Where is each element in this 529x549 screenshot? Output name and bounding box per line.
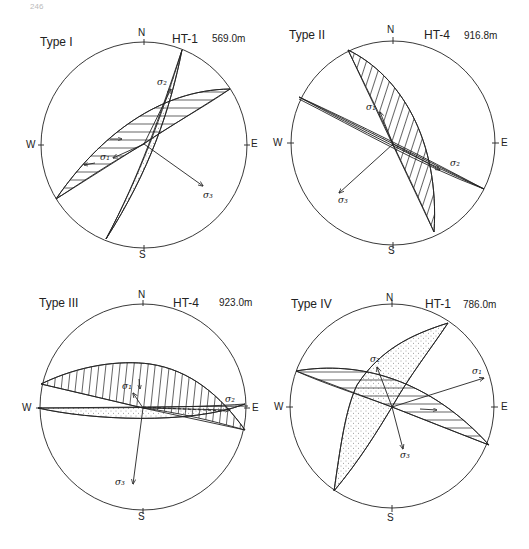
- east-label: E: [501, 402, 508, 412]
- west-label: W: [274, 402, 283, 412]
- sigma1-label: σ₁: [366, 103, 376, 112]
- sigma3-label: σ₃: [400, 451, 410, 460]
- south-label: S: [387, 513, 394, 523]
- south-label: S: [139, 250, 146, 260]
- primitive-circle: [41, 42, 247, 248]
- sigma1-label: σ₁: [100, 153, 110, 162]
- south-label: S: [388, 246, 395, 256]
- east-label: E: [501, 138, 508, 148]
- depth-label: 569.0m: [212, 34, 245, 44]
- stereonet-type-1: [38, 39, 250, 251]
- hatched-sector: [41, 363, 245, 430]
- sigma3-arrow: [144, 144, 203, 186]
- depth-label: 786.0m: [463, 300, 496, 310]
- stereonet-type-2: [287, 37, 499, 249]
- depth-label: 916.8m: [464, 31, 497, 41]
- well-label: HT-4: [424, 29, 450, 41]
- well-label: HT-1: [425, 298, 451, 310]
- north-label: N: [387, 25, 394, 35]
- sigma1-label: σ₁: [122, 382, 132, 391]
- type-label: Type I: [40, 36, 73, 48]
- sigma3-arrow: [133, 408, 143, 484]
- sigma2-label: σ₂: [157, 78, 167, 87]
- sigma2-label: σ₂: [370, 355, 380, 364]
- sigma3-arrow: [392, 407, 403, 449]
- sigma3-label: σ₃: [115, 478, 125, 487]
- east-label: E: [251, 139, 258, 149]
- sigma3-label: σ₃: [203, 191, 213, 200]
- depth-label: 923.0m: [219, 298, 252, 308]
- north-label: N: [386, 293, 393, 303]
- north-label: N: [138, 28, 145, 38]
- sigma2-label: σ₂: [450, 159, 460, 168]
- sigma2-label: σ₂: [225, 395, 235, 404]
- type-label: Type II: [289, 29, 325, 41]
- sigma1-label: σ₁: [472, 367, 482, 376]
- west-label: W: [26, 140, 35, 150]
- west-label: W: [273, 138, 282, 148]
- sigma3-label: σ₃: [338, 196, 348, 205]
- stereonet-type-4: [286, 300, 498, 512]
- south-label: S: [138, 512, 145, 522]
- well-label: HT-1: [172, 33, 198, 45]
- well-label: HT-4: [173, 297, 199, 309]
- stereonet-type-3: [36, 300, 250, 514]
- type-label: Type III: [39, 297, 78, 309]
- north-label: N: [138, 290, 145, 300]
- sigma3-arrow: [339, 144, 393, 193]
- east-label: E: [252, 403, 259, 413]
- stereonet-figure: [0, 0, 529, 549]
- type-label: Type IV: [291, 298, 332, 310]
- west-label: W: [22, 403, 31, 413]
